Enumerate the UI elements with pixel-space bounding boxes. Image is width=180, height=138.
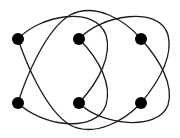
edge-top-right-bottom-middle bbox=[79, 39, 169, 123]
edge-top-middle-bottom-right bbox=[79, 16, 169, 103]
node-bottom-left bbox=[12, 97, 24, 109]
node-top-left bbox=[12, 33, 24, 45]
edge-bottom-left-top-right bbox=[18, 11, 141, 103]
edge-top-middle-bottom-left bbox=[18, 39, 108, 124]
node-top-middle bbox=[73, 33, 85, 45]
node-top-right bbox=[135, 33, 147, 45]
node-bottom-right bbox=[135, 97, 147, 109]
node-bottom-middle bbox=[73, 97, 85, 109]
graph-diagram bbox=[0, 0, 180, 138]
edge-top-left-bottom-middle bbox=[18, 16, 108, 103]
